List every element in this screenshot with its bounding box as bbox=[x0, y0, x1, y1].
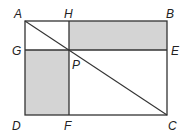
label-b: B bbox=[166, 7, 174, 21]
label-a: A bbox=[13, 7, 22, 21]
label-g: G bbox=[12, 44, 21, 58]
geometry-diagram: A H B G E P D F C bbox=[0, 0, 185, 134]
label-e: E bbox=[171, 44, 180, 58]
label-p: P bbox=[72, 58, 80, 72]
shaded-rectangle-gpfd bbox=[25, 50, 69, 115]
label-h: H bbox=[64, 7, 73, 21]
label-f: F bbox=[64, 119, 72, 133]
label-c: C bbox=[168, 119, 177, 133]
label-d: D bbox=[12, 119, 21, 133]
shaded-rectangle-hbep bbox=[69, 21, 167, 50]
